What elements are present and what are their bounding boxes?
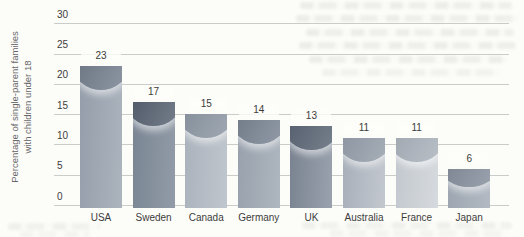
gridline-y0	[54, 205, 509, 206]
bar-canada	[185, 114, 227, 208]
gridline-y25	[54, 54, 509, 55]
bar-top-shading	[185, 114, 227, 138]
bar-germany	[238, 120, 280, 208]
bar-top-shading	[343, 138, 385, 162]
print-bleed-artifact	[306, 29, 514, 36]
print-bleed-artifact	[299, 42, 517, 49]
bar-top-shading	[448, 169, 490, 187]
print-bleed-artifact	[300, 2, 512, 9]
y-axis-title-line1: Percentage of single-parent families	[8, 27, 21, 187]
bar-value-label-sweden: 17	[134, 86, 174, 98]
bar-top-shading	[80, 66, 122, 90]
bar-australia	[343, 138, 385, 208]
bar-value-label-uk: 13	[291, 110, 331, 122]
print-bleed-artifact	[8, 223, 100, 230]
bar-france	[396, 138, 438, 208]
bar-sweden	[133, 102, 175, 208]
bar-chart-figure: Percentage of single-parent families wit…	[0, 0, 524, 237]
y-tick-label-25: 25	[57, 39, 83, 51]
bar-value-label-germany: 14	[239, 104, 279, 116]
print-bleed-artifact	[20, 231, 90, 237]
y-axis-title: Percentage of single-parent families wit…	[8, 27, 34, 187]
bar-top-shading	[290, 126, 332, 150]
bar-value-label-canada: 15	[186, 98, 226, 110]
gridline-y10	[54, 144, 509, 145]
x-tick-label-japan: Japan	[437, 212, 501, 224]
bar-top-shading	[133, 102, 175, 126]
bar-uk	[290, 126, 332, 208]
bar-usa	[80, 66, 122, 208]
bar-value-label-usa: 23	[81, 50, 121, 62]
gridline-y20	[54, 84, 509, 85]
print-bleed-artifact	[330, 230, 510, 237]
bar-top-shading	[396, 138, 438, 162]
bar-japan	[448, 169, 490, 208]
gridline-y5	[54, 175, 509, 176]
y-tick-label-30: 30	[57, 9, 83, 21]
gridline-y30	[54, 23, 509, 24]
bar-top-shading	[238, 120, 280, 144]
bar-value-label-australia: 11	[344, 122, 384, 134]
y-axis-title-line2: with children under 18	[21, 27, 34, 187]
print-bleed-artifact	[309, 56, 507, 63]
gridline-y15	[54, 114, 509, 115]
print-bleed-artifact	[322, 69, 502, 76]
bar-value-label-france: 11	[397, 122, 437, 134]
print-bleed-artifact	[296, 15, 518, 22]
bar-value-label-japan: 6	[449, 153, 489, 165]
